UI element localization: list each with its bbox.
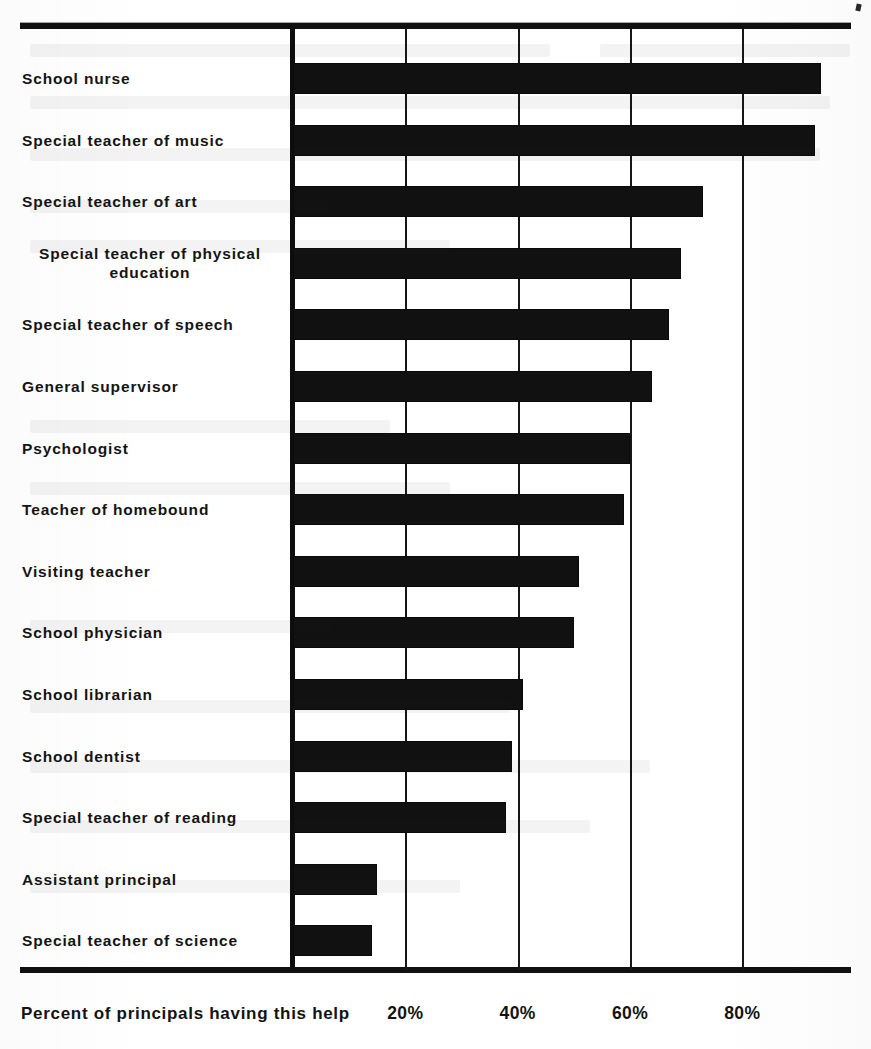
bar bbox=[293, 556, 579, 587]
chart-x-axis-caption: Percent of principals having this help bbox=[21, 1004, 350, 1024]
bar bbox=[293, 679, 523, 710]
bar-row bbox=[293, 741, 850, 772]
category-label: School physician bbox=[22, 623, 284, 642]
category-label-line: Special teacher of art bbox=[22, 192, 284, 211]
category-label-line: General supervisor bbox=[22, 377, 284, 396]
bar bbox=[293, 864, 377, 895]
bar-row bbox=[293, 556, 850, 587]
category-label-line: education bbox=[14, 263, 286, 282]
category-label: School dentist bbox=[22, 747, 284, 766]
bar-row bbox=[293, 679, 850, 710]
bar-row bbox=[293, 864, 850, 895]
bar-row bbox=[293, 494, 850, 525]
x-tick-label: 20% bbox=[387, 1003, 423, 1024]
bar bbox=[293, 925, 372, 956]
category-label: Special teacher of reading bbox=[22, 808, 284, 827]
bar bbox=[293, 741, 512, 772]
bar bbox=[293, 494, 624, 525]
bar-row bbox=[293, 186, 850, 217]
bar bbox=[293, 371, 652, 402]
category-label: Teacher of homebound bbox=[22, 500, 284, 519]
bar-row bbox=[293, 802, 850, 833]
category-label: Assistant principal bbox=[22, 870, 284, 889]
bar bbox=[293, 186, 703, 217]
bar-row bbox=[293, 433, 850, 464]
category-label-line: Special teacher of physical bbox=[14, 244, 286, 263]
category-label: Special teacher of art bbox=[22, 192, 284, 211]
category-label: School librarian bbox=[22, 685, 284, 704]
category-label: Special teacher of science bbox=[22, 931, 284, 950]
category-label-line: Special teacher of reading bbox=[22, 808, 284, 827]
category-label-line: Special teacher of speech bbox=[22, 315, 284, 334]
category-label-line: School nurse bbox=[22, 69, 284, 88]
bar-row bbox=[293, 371, 850, 402]
bar bbox=[293, 125, 815, 156]
bar-row bbox=[293, 925, 850, 956]
bar bbox=[293, 617, 574, 648]
x-tick-label: 60% bbox=[612, 1003, 648, 1024]
bar-row bbox=[293, 248, 850, 279]
category-label: Visiting teacher bbox=[22, 562, 284, 581]
category-label: General supervisor bbox=[22, 377, 284, 396]
x-tick-label: 40% bbox=[500, 1003, 536, 1024]
category-label-line: Special teacher of science bbox=[22, 931, 284, 950]
category-label-line: School librarian bbox=[22, 685, 284, 704]
bar-row bbox=[293, 125, 850, 156]
category-label: Special teacher of music bbox=[22, 131, 284, 150]
chart-plot-area bbox=[293, 29, 850, 970]
bar bbox=[293, 433, 630, 464]
bar bbox=[293, 802, 506, 833]
bar-row bbox=[293, 617, 850, 648]
category-label-line: Teacher of homebound bbox=[22, 500, 284, 519]
category-label-line: School dentist bbox=[22, 747, 284, 766]
category-label-line: School physician bbox=[22, 623, 284, 642]
bar-row bbox=[293, 309, 850, 340]
bar-row bbox=[293, 63, 850, 94]
category-label-line: Special teacher of music bbox=[22, 131, 284, 150]
category-label: Psychologist bbox=[22, 439, 284, 458]
category-label-line: Assistant principal bbox=[22, 870, 284, 889]
x-tick-label: 80% bbox=[724, 1003, 760, 1024]
bar bbox=[293, 309, 669, 340]
category-label: School nurse bbox=[22, 69, 284, 88]
bar bbox=[293, 248, 681, 279]
bar bbox=[293, 63, 821, 94]
scan-speck bbox=[855, 4, 861, 12]
category-label-line: Visiting teacher bbox=[22, 562, 284, 581]
category-label: Special teacher of physicaleducation bbox=[14, 244, 286, 282]
category-label: Special teacher of speech bbox=[22, 315, 284, 334]
category-label-line: Psychologist bbox=[22, 439, 284, 458]
